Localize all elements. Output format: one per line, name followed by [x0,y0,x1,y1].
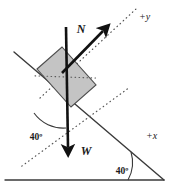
incline-angle-label-at-block: 40º [30,132,43,142]
weight-force-label: W [81,144,93,158]
angle-arc-at-block [34,113,66,128]
positive-y-axis-label: +y [139,11,151,22]
angle-arc-at-ground [128,152,133,180]
positive-x-axis-label: +x [146,130,158,141]
free-body-diagram-canvas: N W +y +x 40º 40º [0,0,171,190]
normal-force-vector-arrow [62,31,103,73]
physics-diagram: N W +y +x 40º 40º [0,0,171,190]
weight-vector-arrow [66,27,68,147]
incline-angle-label-at-ground: 40º [116,166,129,176]
normal-force-label: N [76,22,87,36]
